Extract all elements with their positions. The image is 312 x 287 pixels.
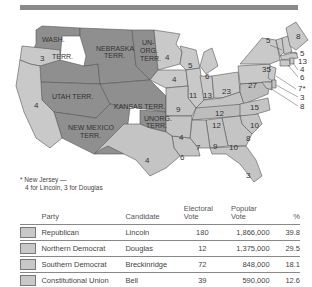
michigan-votes: 6 [205,72,210,81]
popular-cell: 590,000 [221,273,270,287]
missouri-votes: 9 [176,105,181,114]
virginia-votes: 15 [250,103,259,112]
electoral-cell: 72 [184,257,221,273]
legend-swatch-constitutional-union [20,275,36,286]
nebraska-terr-label-2: TERR. [104,52,125,59]
popular-cell: 848,000 [221,257,270,273]
connecticut-votes: 6 [300,73,305,82]
illinois-votes: 11 [189,91,198,100]
tennessee-votes: 12 [212,121,221,130]
legend-swatch-southern-democrat [20,259,36,270]
unorg-south-label-1: UNORG. [144,115,172,122]
louisiana-votes: 6 [180,153,185,162]
electoral-cell: 180 [184,225,221,241]
header-rule [20,5,298,10]
ohio-votes: 23 [222,87,231,96]
unorg-north-label-1: UN- [142,39,155,46]
candidate-cell: Bell [125,273,183,287]
footnote-line-2: 4 for Lincoln, 3 for Douglas [20,184,103,192]
header-swatch [20,205,41,225]
percent-cell: 39.8 [270,225,300,241]
percent-cell: 29.5 [270,241,300,257]
north-carolina-votes: 10 [250,121,259,130]
utah-terr-label: UTAH TERR. [52,93,93,100]
new-mexico-terr-label-1: NEW MEXICO [68,124,114,131]
candidate-cell: Douglas [125,241,183,257]
header-popular-line2: Vote [231,212,246,221]
alabama-votes: 9 [213,142,218,151]
kansas-terr-label: KANSAS TERR. [114,103,165,110]
header-party: Party [41,205,125,225]
minnesota [154,30,182,70]
michigan [200,48,218,74]
iowa-votes: 4 [172,75,177,84]
table-row-southern-democrat: Southern Democrat Breckinridge 72 848,00… [20,257,300,273]
header-electoral-line2: Vote [184,212,199,221]
rhode-island [290,58,294,64]
new-mexico-terr-label-2: TERR. [80,132,101,139]
popular-cell: 1,375,000 [221,241,270,257]
delaware-votes: 3 [300,93,305,102]
florida-votes: 3 [246,171,251,180]
vermont-votes: 5 [266,36,271,45]
party-cell: Republican [41,225,125,241]
table-row-constitutional-union: Constitutional Union Bell 39 590,000 12.… [20,273,300,287]
candidate-cell: Lincoln [125,225,183,241]
header-popular-vote: Popular Vote [221,205,270,225]
percent-cell: 12.6 [270,273,300,287]
california-votes: 4 [34,101,39,110]
party-cell: Southern Democrat [41,257,125,273]
arkansas-votes: 4 [179,133,184,142]
popular-cell: 1,866,000 [221,225,270,241]
table-row-northern-democrat: Northern Democrat Douglas 12 1,375,000 2… [20,241,300,257]
party-cell: Northern Democrat [41,241,125,257]
wash-terr-label-1: WASH. [42,36,65,43]
new-jersey-footnote: * New Jersey — 4 for Lincoln, 3 for Doug… [20,176,103,192]
maryland-votes: 8 [300,102,305,111]
legend-swatch-northern-democrat [20,243,36,254]
kentucky-votes: 12 [215,109,224,118]
connecticut [280,60,290,66]
electoral-cell: 39 [184,273,221,287]
legend-swatch-republican [20,227,36,238]
south-carolina-votes: 8 [246,134,251,143]
header-candidate: Candidate [125,205,183,225]
footnote-line-1: * New Jersey — [20,176,67,183]
wisconsin-votes: 5 [188,61,193,70]
electoral-cell: 12 [184,241,221,257]
nebraska-terr-label-1: NEBRASKA [96,45,134,52]
header-percent: % [270,205,300,225]
maine-votes: 8 [296,32,301,41]
table-row-republican: Republican Lincoln 180 1,866,000 39.8 [20,225,300,241]
party-cell: Constitutional Union [41,273,125,287]
percent-cell: 18.1 [270,257,300,273]
oregon-votes: 3 [40,54,45,63]
pennsylvania-votes: 27 [248,81,257,90]
candidate-cell: Breckinridge [125,257,183,273]
election-results-table: Party Candidate Electoral Vote Popular V… [20,205,300,287]
new-york-votes: 35 [262,65,271,74]
georgia-votes: 10 [229,143,238,152]
new-jersey-votes: 7* [298,84,306,93]
texas-votes: 4 [145,156,150,165]
mississippi-votes: 7 [196,143,201,152]
table-header-row: Party Candidate Electoral Vote Popular V… [20,205,300,225]
wash-terr-label-2: TERR. [52,53,73,60]
new-york [240,38,280,64]
header-electoral-vote: Electoral Vote [184,205,221,225]
delaware [272,80,276,88]
unorg-south-label-2: TERR. [146,122,167,129]
minnesota-votes: 4 [165,53,170,62]
unorg-north-label-3: TERR. [140,55,161,62]
indiana-votes: 13 [203,91,212,100]
unorg-north-label-2: ORG. [140,47,158,54]
